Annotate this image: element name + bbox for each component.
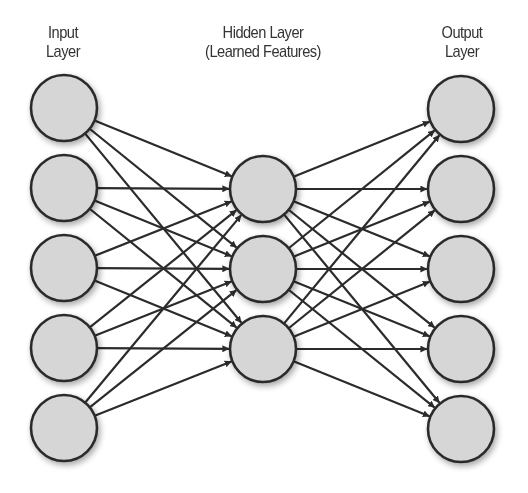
output-layer-label-line1: Output (428, 23, 497, 42)
hidden-node-2 (230, 236, 296, 302)
edge-input-2-to-hidden-1 (95, 188, 229, 189)
hidden-layer-label-line1: Hidden Layer (190, 23, 336, 42)
output-layer-label: Output Layer (428, 23, 497, 61)
output-node-3 (428, 236, 494, 302)
output-layer-label-line2: Layer (428, 42, 497, 61)
neural-network-diagram (0, 0, 528, 493)
hidden-node-3 (230, 316, 296, 382)
input-node-3 (31, 235, 97, 301)
edge-input-5-to-hidden-1 (84, 215, 241, 404)
input-layer-label-line2: Layer (29, 42, 98, 61)
input-layer-label-line1: Input (29, 23, 98, 42)
edge-hidden-3-to-output-5 (292, 361, 430, 417)
input-node-2 (31, 155, 97, 221)
input-node-1 (31, 75, 97, 141)
edge-hidden-3-to-output-1 (283, 135, 440, 325)
output-node-4 (428, 316, 494, 382)
hidden-layer-label-line2: (Learned Features) (190, 42, 336, 61)
edge-hidden-1-to-output-1 (292, 122, 430, 178)
output-node-1 (428, 76, 494, 142)
input-layer-label: Input Layer (29, 23, 98, 61)
hidden-layer-label: Hidden Layer (Learned Features) (190, 23, 336, 61)
output-node-5 (428, 396, 494, 462)
output-node-2 (428, 156, 494, 222)
input-node-4 (31, 315, 97, 381)
input-node-5 (31, 395, 97, 461)
hidden-node-1 (230, 156, 296, 222)
